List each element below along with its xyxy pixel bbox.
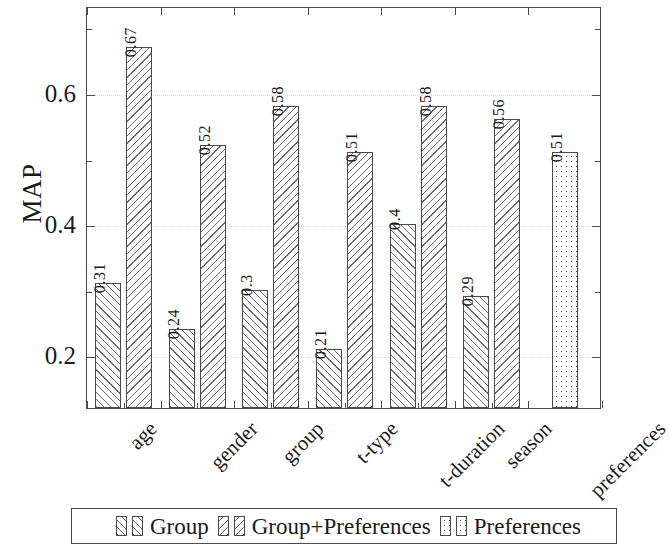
y-axis-tick-minor [87,161,92,162]
y-axis-title: MAP [17,124,48,264]
x-axis-category-label: preferences [587,418,670,501]
x-axis-tick-minor [345,403,346,408]
x-axis-tick-top [161,8,162,15]
bar: 0.51 [347,152,373,408]
x-axis-tick-top [234,8,235,15]
legend-label: Group [150,515,209,538]
x-axis-tick-top [308,8,309,15]
bar: 0.31 [95,283,121,408]
bar-value-label: 0.24 [166,309,182,339]
legend-entry[interactable]: Group [107,509,209,543]
y-axis-tick-major-right [592,226,600,227]
x-axis-category-label: season [501,418,555,472]
x-axis-tick [87,401,88,408]
legend-swatch-group [218,516,245,536]
bar: 0.51 [552,152,578,408]
bar-value-label: 0.51 [344,132,360,162]
x-axis-category-label: t-duration [435,418,508,491]
x-axis-category-label: gender [207,418,262,473]
x-axis-tick-minor [124,403,125,408]
x-axis-tick-top [455,8,456,15]
bar-value-label: 0.21 [313,329,329,359]
legend-swatch-group [440,516,467,536]
x-axis-tick-top [528,8,529,15]
x-axis-category-label: group [278,418,327,467]
x-axis-tick [455,401,456,408]
x-axis-category-label: age [125,418,160,453]
y-axis-tick-label: 0.4 [8,212,76,237]
plot-area: 0.310.670.240.520.30.580.210.510.40.580.… [86,7,601,409]
legend-label: Preferences [474,515,581,538]
y-axis-tick-major [87,357,95,358]
x-axis-category-label: t-type [352,418,401,467]
x-axis-tick-top [381,8,382,15]
bar-value-label: 0.29 [460,276,476,306]
bar-value-label: 0.67 [123,27,139,57]
bar-value-label: 0.3 [239,274,255,296]
legend-swatch [116,516,127,536]
y-axis-tick-label: 0.2 [8,343,76,368]
y-axis-tick-major [87,95,95,96]
chart-legend: GroupGroup+PreferencesPreferences [71,508,617,544]
legend-swatch [440,516,451,536]
bar-value-label: 0.58 [270,86,286,116]
bar-value-label: 0.4 [387,208,403,230]
y-axis-tick-major-right [592,95,600,96]
bar: 0.29 [463,296,489,408]
bar-value-label: 0.51 [549,132,565,162]
x-axis-tick-top [87,8,88,15]
bar-value-label: 0.58 [418,86,434,116]
y-axis-tick-minor-right [595,29,600,30]
x-axis-tick [602,401,603,408]
x-axis-tick-minor [197,403,198,408]
bar-value-label: 0.31 [92,263,108,293]
x-axis-tick-minor [492,403,493,408]
y-axis-tick-minor [87,29,92,30]
legend-swatch [456,516,467,536]
y-axis-tick-minor-right [595,292,600,293]
x-axis-tick [234,401,235,408]
gridline [87,226,600,227]
bar: 0.58 [421,106,447,408]
x-axis-tick-minor [418,403,419,408]
legend-swatch [132,516,143,536]
y-axis-tick-major [87,226,95,227]
legend-swatch-group [116,516,143,536]
bar: 0.67 [126,47,152,408]
legend-label: Group+Preferences [252,515,431,538]
legend-swatch [234,516,245,536]
gridline [87,357,600,358]
bar: 0.21 [316,349,342,408]
gridline [87,95,600,96]
y-axis-tick-label: 0.6 [8,81,76,106]
legend-swatch [218,516,229,536]
bar: 0.56 [494,119,520,408]
x-axis-tick [528,401,529,408]
y-axis-tick-major-right [592,357,600,358]
bar-value-label: 0.56 [491,99,507,129]
x-axis-tick [381,401,382,408]
bar: 0.4 [390,224,416,408]
bar: 0.24 [169,329,195,408]
x-axis-tick [308,401,309,408]
legend-entry[interactable]: Group+Preferences [209,509,431,543]
bar: 0.58 [273,106,299,408]
x-axis-tick [161,401,162,408]
bar: 0.52 [200,145,226,408]
x-axis-tick-minor [271,403,272,408]
bar: 0.3 [242,290,268,408]
legend-entry[interactable]: Preferences [431,509,581,543]
y-axis-tick-minor-right [595,161,600,162]
bar-value-label: 0.52 [197,125,213,155]
